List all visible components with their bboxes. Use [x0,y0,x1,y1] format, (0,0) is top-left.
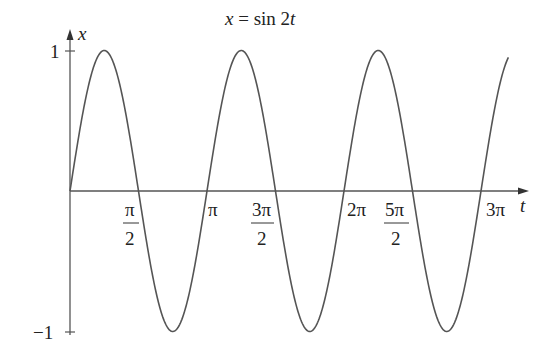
chart-title: x = sin 2t [224,8,296,29]
t-axis-arrow-icon [518,188,529,195]
x-tick-label-3pi: 3π [486,199,506,220]
x-axis-arrow-icon [67,29,74,40]
y-tick-label-1: 1 [50,41,60,62]
svg-text:2: 2 [125,228,135,249]
svg-text:2: 2 [257,228,267,249]
svg-text:3π: 3π [252,199,272,220]
x-tick-label-5pi-over-2: 5π 2 [384,199,409,249]
x-tick-label-2pi: 2π [347,199,367,220]
svg-text:2: 2 [391,228,401,249]
x-tick-label-pi-over-2: π 2 [123,199,139,249]
x-tick-label-pi: π [208,199,218,220]
x-tick-label-3pi-over-2: 3π 2 [251,199,274,249]
svg-text:5π: 5π [385,199,405,220]
t-axis-label: t [520,195,526,216]
y-tick-label-neg1: −1 [33,322,53,343]
sine-chart: x = sin 2t x t 1 −1 π 2 π 3π 2 2π 5π 2 3… [0,0,555,353]
svg-text:π: π [125,199,135,220]
x-axis-label: x [77,23,87,44]
